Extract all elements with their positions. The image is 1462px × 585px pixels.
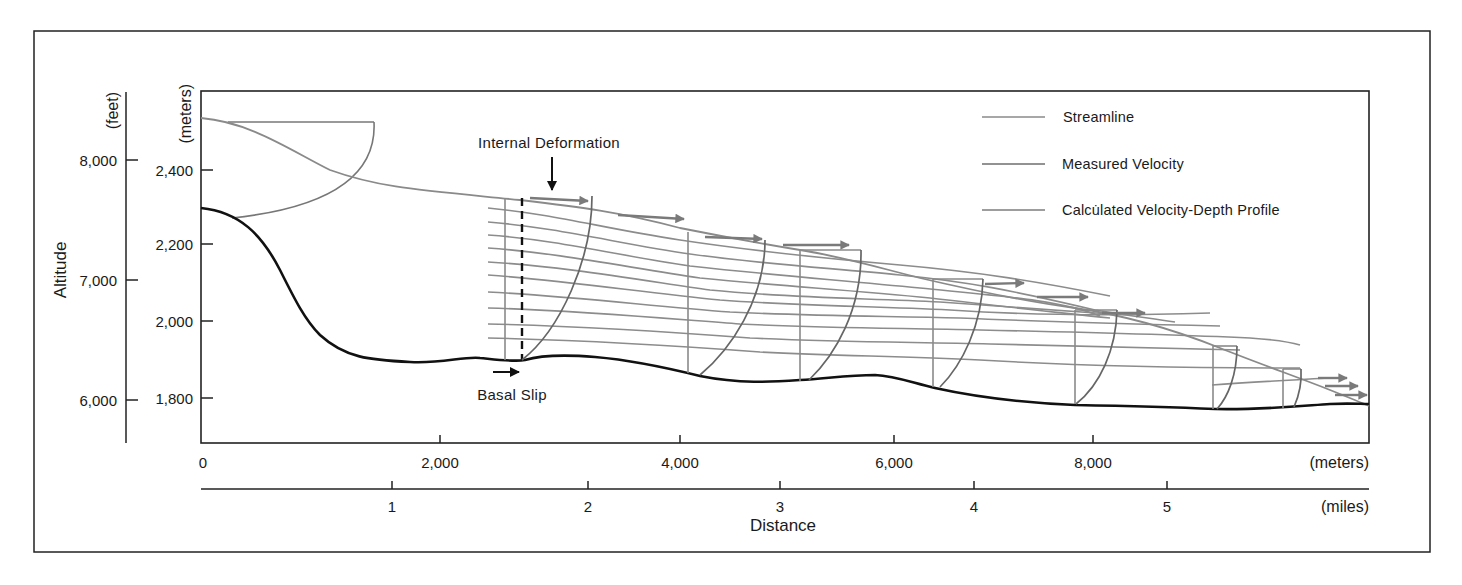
x-tick-mi-3: 3 [776, 498, 784, 515]
x-tick-mi-2: 2 [584, 498, 592, 515]
x-tick-m-6000: 6,000 [875, 454, 913, 471]
y-axis-meters: 2,400 2,200 2,000 1,800 (meters) [155, 84, 213, 407]
x-axis-miles: 1 2 3 4 5 (miles) [201, 481, 1369, 515]
glacier-bed-line [201, 208, 1369, 409]
y-unit-meters: (meters) [177, 84, 194, 144]
y-tick-m-2200: 2,200 [155, 236, 193, 253]
legend-label-streamline: Streamline [1063, 109, 1134, 125]
x-unit-miles: (miles) [1321, 498, 1369, 515]
x-axis-meters: 0 2,000 4,000 6,000 8,000 (meters) [199, 435, 1369, 471]
legend-item-calculated-profile: Calcu̇lated Velocity-Depth Profile [982, 202, 1280, 218]
x-tick-m-2000: 2,000 [421, 454, 459, 471]
legend: Streamline Measured Velocity Calcu̇lated… [982, 109, 1280, 218]
x-axis-title: Distance [750, 516, 816, 535]
y-tick-m-1800: 1,800 [155, 390, 193, 407]
y-unit-feet: (feet) [104, 92, 121, 129]
y-tick-feet-6000: 6,000 [79, 392, 117, 409]
legend-label-calculated-profile: Calcu̇lated Velocity-Depth Profile [1062, 202, 1280, 218]
legend-item-streamline: Streamline [982, 109, 1134, 125]
x-tick-mi-5: 5 [1163, 498, 1171, 515]
legend-item-measured-velocity: Measured Velocity [982, 156, 1184, 172]
x-tick-m-8000: 8,000 [1074, 454, 1112, 471]
x-tick-m-0: 0 [199, 454, 207, 471]
accumulation-velocity-profile [228, 122, 374, 218]
glacier-surface-line [201, 118, 1369, 406]
y-tick-m-2400: 2,400 [155, 162, 193, 179]
y-tick-feet-8000: 8,000 [79, 152, 117, 169]
y-axis-title: Altitude [51, 242, 70, 299]
legend-label-measured-velocity: Measured Velocity [1062, 156, 1184, 172]
annotation-internal-deformation: Internal Deformation [478, 134, 620, 151]
y-axis-feet: 8,000 7,000 6,000 (feet) [79, 92, 138, 443]
x-tick-m-4000: 4,000 [661, 454, 699, 471]
x-tick-mi-4: 4 [970, 498, 978, 515]
plot-area [201, 91, 1369, 443]
y-tick-m-2000: 2,000 [155, 313, 193, 330]
x-unit-meters: (meters) [1309, 454, 1369, 471]
glacier-flow-figure: 8,000 7,000 6,000 (feet) Altitude 2,400 … [0, 0, 1462, 585]
y-tick-feet-7000: 7,000 [79, 272, 117, 289]
annotation-basal-slip: Basal Slip [477, 386, 547, 403]
x-tick-mi-1: 1 [388, 498, 396, 515]
